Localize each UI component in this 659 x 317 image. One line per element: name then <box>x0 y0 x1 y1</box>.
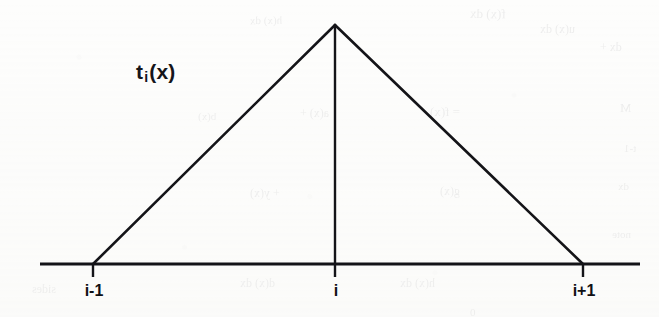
function-label-argument: (x) <box>149 60 175 83</box>
function-label: ti(x) <box>136 61 176 84</box>
hat-function-drawing <box>0 0 659 317</box>
tick-label-i: i <box>334 283 338 299</box>
figure-canvas: f(x) dxu(x) dxdx +h(x) dx= f(x)a(x) +b(x… <box>0 0 659 317</box>
hat-left-edge <box>93 25 335 264</box>
tick-label-i-plus-1: i+1 <box>573 283 596 299</box>
hat-right-edge <box>335 25 583 264</box>
tick-label-i-minus-1: i-1 <box>85 283 104 299</box>
